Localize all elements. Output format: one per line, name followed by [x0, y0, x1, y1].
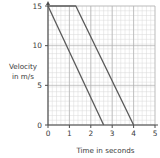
x-tick-labels: 012345: [46, 129, 158, 138]
x-tick-label: 2: [88, 129, 93, 138]
y-tick-label: 5: [37, 81, 42, 90]
x-tick-label: 0: [46, 129, 51, 138]
y-axis-title-line2: in m/s: [12, 72, 34, 81]
y-axis-title-line1: Velocity: [9, 62, 38, 71]
y-tick-label: 0: [37, 121, 42, 130]
y-tick-label: 15: [33, 2, 43, 11]
x-tick-label: 4: [131, 129, 136, 138]
x-tick-label: 1: [67, 129, 72, 138]
y-tick-label: 10: [33, 41, 43, 50]
velocity-time-chart: 012345051015Time in secondsVelocityin m/…: [0, 0, 160, 158]
x-tick-label: 3: [110, 129, 115, 138]
x-tick-label: 5: [153, 129, 158, 138]
plot-background: [48, 6, 155, 125]
x-axis-title: Time in seconds: [75, 146, 134, 155]
y-axis-arrow-icon: [46, 1, 50, 5]
chart-canvas: 012345051015Time in secondsVelocityin m/…: [0, 0, 160, 158]
